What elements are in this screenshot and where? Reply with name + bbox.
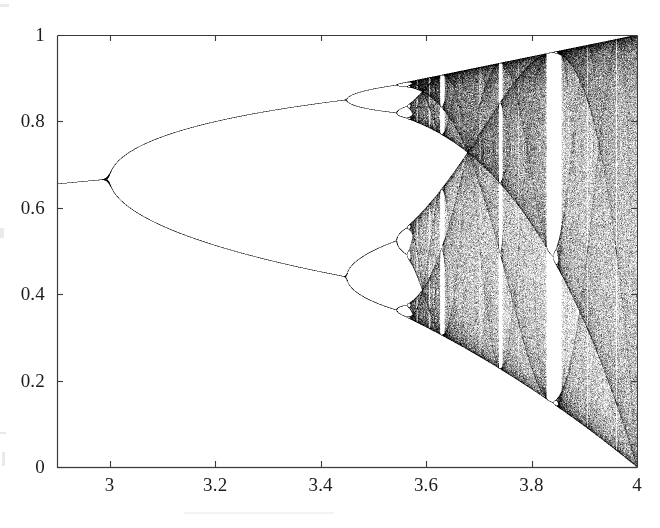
scan-artifact-left-lower [0,432,6,434]
y-axis-tick-label-0-2: 0.2 [0,370,45,392]
scan-artifact-left-bottom [2,452,5,466]
y-axis-tick-label-0-6: 0.6 [0,197,45,219]
bifurcation-plot-canvas [0,0,660,528]
bifurcation-figure: 1 0.8 0.6 0.4 0.2 0 3 3.2 3.4 3.6 3.8 4 [0,0,660,528]
y-axis-tick-label-0-4: 0.4 [0,283,45,305]
y-axis-tick-label-0-8: 0.8 [0,110,45,132]
y-axis-tick-label-0: 0 [0,456,45,478]
scan-artifact-top-left [0,4,9,7]
x-axis-tick-label-4: 4 [632,474,642,496]
y-axis-tick-label-1: 1 [0,24,45,46]
x-axis-tick-label-3-8: 3.8 [519,474,543,496]
x-axis-tick-label-3-6: 3.6 [414,474,438,496]
scan-artifact-bottom [184,512,334,514]
x-axis-tick-label-3-4: 3.4 [308,474,332,496]
x-axis-tick-label-3-2: 3.2 [203,474,227,496]
x-axis-tick-label-3: 3 [105,474,115,496]
scan-artifact-left-mid [0,228,4,238]
